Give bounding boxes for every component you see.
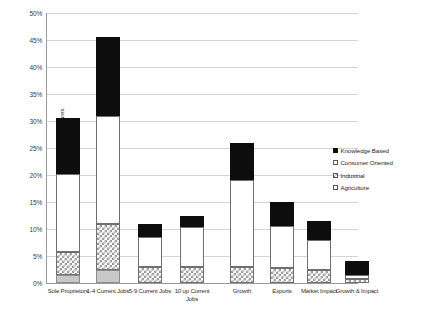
y-tick-label: 50% <box>2 10 42 17</box>
y-tick-label: 45% <box>2 37 42 44</box>
legend-label: Knowledge Based <box>341 147 389 154</box>
x-tick-label: 1-4 Current Jobs <box>85 288 131 296</box>
legend-item[interactable]: Agriculture <box>333 184 428 192</box>
x-tick-label: 5-9 Current Jobs <box>127 288 173 296</box>
y-tick-label: 35% <box>2 91 42 98</box>
x-tick-label: 10 up Current Jobs <box>169 288 215 303</box>
y-tick-label: 20% <box>2 172 42 179</box>
legend-label: Agriculture <box>341 184 369 191</box>
y-tick-label: 15% <box>2 199 42 206</box>
x-tick-label: Growth & Impact <box>334 288 380 296</box>
legend-swatch-icon <box>333 148 338 153</box>
legend-item[interactable]: Knowledge Based <box>333 146 428 154</box>
y-tick-label: 40% <box>2 64 42 71</box>
legend-item[interactable]: Consumer Oriented <box>333 159 428 167</box>
y-tick-label: 30% <box>2 118 42 125</box>
legend-label: Consumer Oriented <box>341 159 393 166</box>
legend-item[interactable]: Industrial <box>333 171 428 179</box>
y-tick-label: 0% <box>2 280 42 287</box>
y-tick-label: 10% <box>2 226 42 233</box>
legend-label: Industrial <box>341 172 365 179</box>
chart-legend: Knowledge BasedConsumer OrientedIndustri… <box>333 146 428 196</box>
legend-swatch-icon <box>333 185 338 190</box>
y-tick-label: 25% <box>2 145 42 152</box>
bar-chart: Proportion of New Ventures 0%5%10%15%20%… <box>0 0 428 328</box>
legend-swatch-icon <box>333 160 338 165</box>
y-tick-label: 5% <box>2 253 42 260</box>
legend-swatch-icon <box>333 173 338 178</box>
